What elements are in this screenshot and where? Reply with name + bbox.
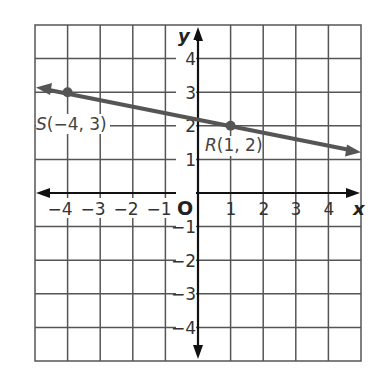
y-tick: 1 <box>185 150 196 170</box>
x-axis-label: x <box>352 198 366 219</box>
line-arrow-left-icon <box>36 83 52 95</box>
x-tick: 1 <box>226 199 237 219</box>
point-R <box>226 121 236 131</box>
line-arrow-right-icon <box>345 145 361 157</box>
x-tick: 4 <box>324 199 335 219</box>
x-axis-arrow-left-icon <box>36 188 50 198</box>
y-tick: −3 <box>171 284 196 304</box>
origin-label: O <box>177 197 193 219</box>
x-tick: −2 <box>113 199 138 219</box>
x-tick: 2 <box>259 199 270 219</box>
y-tick: 3 <box>185 83 196 103</box>
x-tick: −4 <box>47 199 72 219</box>
y-tick: −4 <box>171 318 196 338</box>
point-S <box>63 87 73 97</box>
x-axis-arrow-right-icon <box>346 188 360 198</box>
x-tick: −1 <box>146 199 171 219</box>
x-tick: −3 <box>80 199 105 219</box>
point-R-label: R(1, 2) <box>205 135 263 155</box>
y-tick: −1 <box>171 217 196 237</box>
y-axis-arrow-down-icon <box>193 345 203 359</box>
y-axis-arrow-up-icon <box>193 27 203 41</box>
y-tick: 4 <box>185 49 196 69</box>
coordinate-plane: −4 −3 −2 −1 1 2 3 4 x y O 4 3 2 1 −1 −2 … <box>0 0 382 386</box>
x-tick: 3 <box>291 199 302 219</box>
y-axis-label: y <box>178 25 191 46</box>
y-tick: −2 <box>171 251 196 271</box>
point-S-label: S(−4, 3) <box>36 114 107 134</box>
